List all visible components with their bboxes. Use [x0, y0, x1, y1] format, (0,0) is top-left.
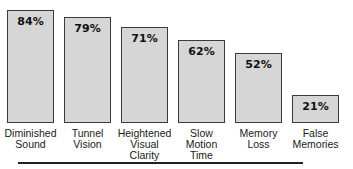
category-label: Diminished Sound	[1, 128, 61, 150]
category-label: Tunnel Vision	[58, 128, 118, 150]
bar-value-label: 21%	[293, 100, 338, 113]
bar-value-label: 52%	[236, 58, 281, 71]
bar-diminished-sound: 84%	[7, 10, 54, 123]
bar-slow-motion-time: 62%	[178, 40, 225, 123]
bar-tunnel-vision: 79%	[64, 17, 111, 123]
bar-value-label: 79%	[65, 22, 110, 35]
bar-value-label: 84%	[8, 15, 53, 28]
category-label: False Memories	[286, 128, 346, 150]
baseline-rule	[18, 162, 303, 164]
category-label: Heightened Visual Clarity	[115, 128, 175, 161]
bar-value-label: 62%	[179, 45, 224, 58]
category-label: Memory Loss	[229, 128, 289, 150]
bar-false-memories: 21%	[292, 95, 339, 123]
category-label: Slow Motion Time	[172, 128, 232, 161]
bar-heightened-visual-clarity: 71%	[121, 27, 168, 123]
bar-chart: 84%Diminished Sound79%Tunnel Vision71%He…	[0, 0, 353, 169]
bar-memory-loss: 52%	[235, 53, 282, 123]
bar-value-label: 71%	[122, 32, 167, 45]
